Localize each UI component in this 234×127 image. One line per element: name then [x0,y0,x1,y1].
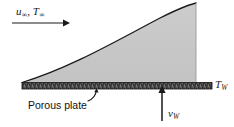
blowing-arrow [158,86,165,122]
freestream-temperature-subscript: ∞ [39,11,45,19]
boundary-layer-shaded-region [22,3,196,83]
wall-temperature-subscript: W [221,83,227,92]
figure-boundary-layer-porous-plate: u∞, T∞ TW vW Porous plate [0,0,234,127]
wall-velocity-label: vW [168,108,179,121]
wall-temperature-label: TW [215,79,227,92]
freestream-arrow [12,19,70,26]
porous-plate-label: Porous plate [28,100,87,111]
wall-velocity-subscript: W [173,112,179,121]
freestream-conditions-label: u∞, T∞ [16,6,45,19]
freestream-label-separator: , [27,5,30,17]
porous-plate-band [22,83,212,90]
